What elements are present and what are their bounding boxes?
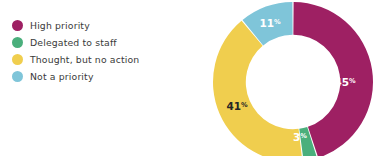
legend-item-delegated-to-staff[interactable]: Delegated to staff: [12, 34, 182, 51]
legend-label-delegated-to-staff: Delegated to staff: [30, 37, 117, 48]
legend-item-thought-but-no-action[interactable]: Thought, but no action: [12, 51, 182, 68]
legend-item-high-priority[interactable]: High priority: [12, 17, 182, 34]
legend-swatch-thought-but-no-action: [12, 54, 23, 65]
legend-item-not-a-priority[interactable]: Not a priority: [12, 68, 182, 85]
legend-swatch-high-priority: [12, 20, 23, 31]
donut-plot-area: 45%3%41%11%: [193, 0, 381, 156]
donut-chart-figure: High priority Delegated to staff Thought…: [0, 0, 381, 156]
legend-label-not-a-priority: Not a priority: [30, 71, 94, 82]
legend-swatch-delegated-to-staff: [12, 37, 23, 48]
donut-svg: 45%3%41%11%: [193, 0, 381, 156]
legend-label-high-priority: High priority: [30, 20, 90, 31]
donut-slice-thought-but-no-action[interactable]: [213, 21, 302, 156]
legend-label-thought-but-no-action: Thought, but no action: [30, 54, 139, 65]
legend-swatch-not-a-priority: [12, 71, 23, 82]
chart-legend: High priority Delegated to staff Thought…: [12, 17, 182, 85]
